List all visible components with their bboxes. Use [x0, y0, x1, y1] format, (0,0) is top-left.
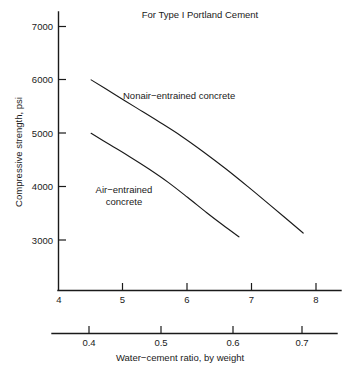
x-tick-label-5: 5 [120, 294, 125, 305]
compressive-strength-chart: For Type I Portland Cement Compressive s… [0, 0, 351, 371]
y-tick-label-6000: 6000 [32, 74, 53, 85]
air-curve-label: Air−entrained concrete [96, 184, 153, 207]
air-curve-label-line-2: concrete [106, 196, 142, 207]
x-axis-tick-labels: 4 5 6 7 8 [56, 294, 318, 305]
chart-title: For Type I Portland Cement [142, 9, 259, 20]
nonair-curve-label: Nonair−entrained concrete [123, 90, 235, 101]
x-tick-label-8: 8 [313, 294, 318, 305]
x-tick-label-6: 6 [184, 294, 189, 305]
secondary-tick-label-0-5: 0.5 [154, 337, 167, 348]
secondary-tick-label-0-4: 0.4 [82, 337, 95, 348]
x-tick-label-7: 7 [249, 294, 254, 305]
nonair-entrained-curve [91, 80, 303, 233]
chart-figure: For Type I Portland Cement Compressive s… [0, 0, 351, 371]
secondary-tick-label-0-6: 0.6 [226, 337, 239, 348]
y-tick-label-7000: 7000 [32, 21, 53, 32]
y-tick-label-4000: 4000 [32, 181, 53, 192]
secondary-axis-tick-labels: 0.4 0.5 0.6 0.7 [82, 337, 308, 348]
secondary-axis-ticks [89, 326, 302, 334]
secondary-tick-label-0-7: 0.7 [295, 337, 308, 348]
x-axis-ticks [123, 283, 317, 291]
air-curve-label-line-1: Air−entrained [96, 184, 153, 195]
y-axis-title: Compressive strength, psi [13, 97, 24, 207]
x-tick-label-4: 4 [56, 294, 61, 305]
y-axis-ticks [59, 27, 67, 241]
y-axis-tick-labels: 7000 6000 5000 4000 3000 [32, 21, 53, 246]
secondary-x-axis-title: Water−cement ratio, by weight [116, 352, 245, 363]
y-tick-label-3000: 3000 [32, 235, 53, 246]
y-tick-label-5000: 5000 [32, 128, 53, 139]
